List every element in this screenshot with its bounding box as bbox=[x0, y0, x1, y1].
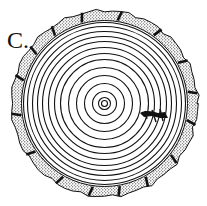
bark-crack bbox=[12, 114, 22, 115]
bark-crack bbox=[188, 92, 198, 94]
growth-ring bbox=[24, 23, 186, 185]
growth-ring bbox=[85, 84, 125, 124]
tree-ring-diagram bbox=[0, 0, 207, 206]
growth-ring bbox=[28, 27, 182, 181]
growth-ring bbox=[99, 98, 111, 110]
growth-rings bbox=[24, 23, 186, 185]
growth-ring bbox=[69, 68, 141, 140]
bark-crack bbox=[119, 186, 120, 196]
growth-ring bbox=[55, 54, 155, 154]
growth-ring bbox=[93, 92, 117, 116]
growth-ring bbox=[102, 101, 108, 107]
growth-ring bbox=[61, 60, 149, 148]
growth-ring bbox=[49, 48, 161, 160]
growth-ring bbox=[38, 37, 172, 171]
growth-ring bbox=[43, 42, 167, 166]
